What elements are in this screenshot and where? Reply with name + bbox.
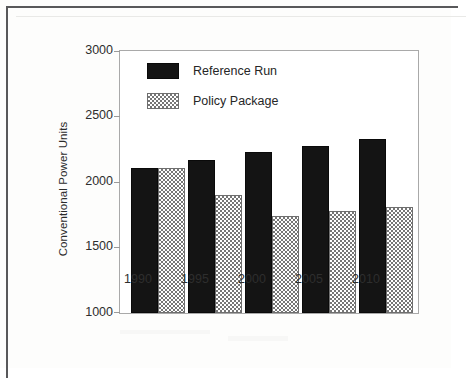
y-tick-mark-2000 <box>114 182 120 183</box>
legend-item-policy-package[interactable]: Policy Package <box>147 86 347 116</box>
bar-policy-package-2000[interactable] <box>272 216 299 313</box>
bar-reference-run-1995[interactable] <box>188 160 215 313</box>
x-tick-label-1990: 1990 <box>108 272 168 286</box>
bar-reference-run-1990[interactable] <box>131 168 158 313</box>
legend-label-reference-run: Reference Run <box>193 64 277 78</box>
y-tick-mark-3000 <box>114 51 120 52</box>
y-tick-label-3000: 3000 <box>69 43 113 57</box>
y-tick-label-2000: 2000 <box>69 174 113 188</box>
bar-policy-package-1995[interactable] <box>215 195 242 313</box>
y-tick-mark-2500 <box>114 116 120 117</box>
y-tick-label-2500: 2500 <box>69 108 113 122</box>
solid-black-swatch-icon <box>147 63 179 79</box>
legend: Reference Run Policy Package <box>147 56 347 116</box>
bar-policy-package-2010[interactable] <box>386 207 413 313</box>
y-tick-mark-1500 <box>114 247 120 248</box>
bar-reference-run-2000[interactable] <box>245 152 272 313</box>
bar-policy-package-2005[interactable] <box>329 211 356 313</box>
x-tick-label-1995: 1995 <box>165 272 225 286</box>
legend-item-reference-run[interactable]: Reference Run <box>147 56 347 86</box>
x-tick-label-2005: 2005 <box>279 272 339 286</box>
x-tick-label-2000: 2000 <box>222 272 282 286</box>
bar-reference-run-2005[interactable] <box>302 146 329 313</box>
y-tick-mark-1000 <box>114 312 120 313</box>
y-axis-title: Conventional Power Units <box>57 64 69 314</box>
bar-policy-package-1990[interactable] <box>158 168 185 313</box>
bar-reference-run-2010[interactable] <box>359 139 386 313</box>
checkered-gray-swatch-icon <box>147 93 179 109</box>
y-tick-label-1500: 1500 <box>69 239 113 253</box>
x-tick-label-2010: 2010 <box>336 272 396 286</box>
y-tick-label-1000: 1000 <box>69 305 113 319</box>
legend-label-policy-package: Policy Package <box>193 94 278 108</box>
